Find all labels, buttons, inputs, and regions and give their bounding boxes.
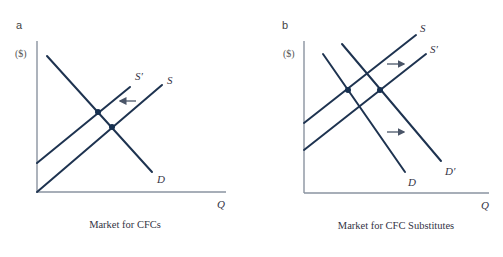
- y-axis-unit-label: ($): [283, 48, 295, 60]
- supply-demand-diagram: a ($) Q D S S′ Market for CFCs b ($) Q D: [0, 0, 503, 257]
- y-axis-unit-label: ($): [15, 48, 27, 60]
- panel-letter: a: [16, 19, 23, 31]
- demand-label-d: D: [407, 176, 416, 188]
- supply-label-s-prime: S′: [135, 70, 144, 82]
- x-axis-label: Q: [217, 198, 225, 210]
- demand-label-d-prime: D′: [444, 165, 456, 177]
- supply-curve-s: [37, 85, 162, 192]
- panel-b: b ($) Q D D′ S S′ Market for CFC Substit…: [282, 19, 489, 231]
- equilibrium-point-new: [377, 87, 383, 93]
- supply-label-s: S: [420, 22, 426, 34]
- x-axis-label: Q: [481, 199, 489, 211]
- equilibrium-point-original: [109, 124, 115, 130]
- supply-curve-s-prime: [304, 54, 426, 150]
- equilibrium-point-new: [95, 109, 101, 115]
- panel-a: a ($) Q D S S′ Market for CFCs: [15, 19, 226, 230]
- supply-label-s: S: [167, 74, 173, 86]
- equilibrium-point-original: [345, 87, 351, 93]
- panel-letter: b: [282, 19, 288, 31]
- supply-label-s-prime: S′: [430, 43, 439, 55]
- panel-caption: Market for CFC Substitutes: [338, 220, 454, 231]
- demand-label-d: D: [156, 173, 165, 185]
- panel-caption: Market for CFCs: [89, 219, 161, 230]
- demand-curve-d: [323, 54, 405, 172]
- supply-curve-s: [304, 35, 416, 123]
